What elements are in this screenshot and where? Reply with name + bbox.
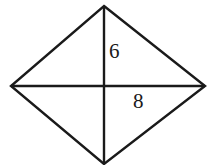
geometry-figure: 6 8 [0, 0, 216, 165]
dimension-label-six: 6 [109, 41, 120, 62]
rhombus-diagram-svg [0, 0, 216, 165]
dimension-label-eight: 8 [133, 91, 144, 112]
